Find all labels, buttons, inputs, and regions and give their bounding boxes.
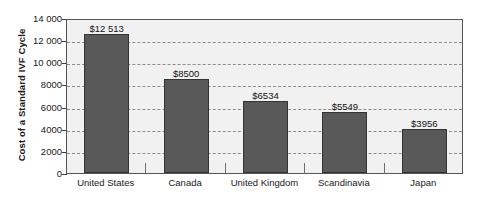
bar-value-label: $3956: [384, 118, 464, 129]
y-tick-label: 14 000: [18, 14, 62, 24]
y-tick-label: 6000: [18, 103, 62, 113]
bar-value-label: $5549: [305, 101, 385, 112]
y-tick-label: 12 000: [18, 36, 62, 46]
x-axis-labels: United StatesCanadaUnited KingdomScandin…: [66, 176, 463, 194]
x-axis-ticks: [66, 163, 463, 174]
bar-value-label: $8500: [146, 68, 226, 79]
y-tick-label: 2000: [18, 147, 62, 157]
x-tick-mark: [384, 163, 385, 174]
bar-chart: Cost of a Standard IVF Cycle 02000400060…: [0, 0, 480, 213]
x-axis-category-label: Japan: [373, 176, 473, 190]
bar-value-label: $6534: [226, 90, 306, 101]
y-tick-label: 8000: [18, 80, 62, 90]
bar: [164, 79, 209, 173]
y-tick-label: 4000: [18, 125, 62, 135]
bars-layer: $12 513$8500$6534$5549$3956: [67, 20, 462, 173]
x-tick-mark: [225, 163, 226, 174]
bar: [84, 34, 129, 173]
y-tick-mark: [62, 174, 67, 175]
plot-area: $12 513$8500$6534$5549$3956: [66, 19, 463, 174]
bar-value-label: $12 513: [67, 23, 147, 34]
x-tick-mark: [145, 163, 146, 174]
x-tick-mark: [304, 163, 305, 174]
y-tick-label: 10 000: [18, 58, 62, 68]
